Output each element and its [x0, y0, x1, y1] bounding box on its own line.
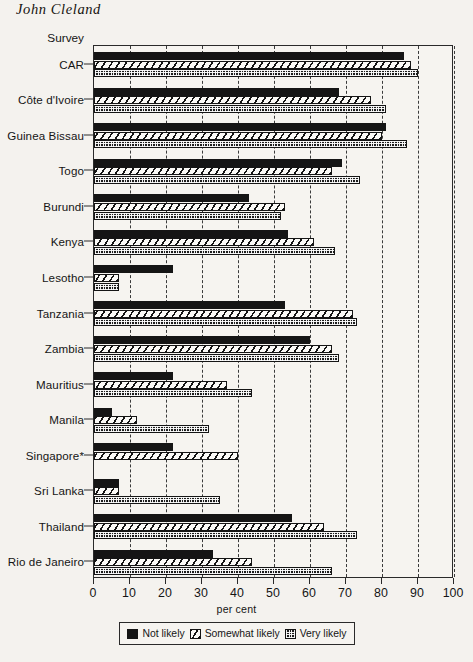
dotted-stipple-swatch	[285, 629, 296, 639]
bar	[94, 531, 357, 539]
bar	[94, 274, 119, 282]
bar	[94, 425, 209, 433]
x-tick-40	[237, 578, 238, 584]
category-label: Manila	[0, 413, 93, 426]
category-tickmark	[84, 99, 93, 100]
category-tickmark	[84, 454, 93, 455]
bar	[94, 452, 238, 460]
diagonal-hatch-swatch	[190, 629, 201, 639]
bar	[94, 354, 339, 362]
bar	[94, 523, 324, 531]
legend-item: Not likely	[127, 628, 184, 639]
bar	[94, 230, 288, 238]
bar	[94, 96, 371, 104]
bar	[94, 301, 285, 309]
bar	[94, 176, 360, 184]
category-label: Kenya	[0, 235, 93, 248]
x-tick-60	[309, 578, 310, 584]
category-label: Togo	[0, 164, 93, 177]
legend-label: Very likely	[300, 628, 347, 639]
bar	[94, 212, 281, 220]
category-tickmark	[84, 525, 93, 526]
bar	[94, 159, 342, 167]
x-tick-10	[129, 578, 130, 584]
category-label: Tanzania	[0, 306, 93, 319]
bar	[94, 345, 332, 353]
category-label: Mauritius	[0, 377, 93, 390]
x-tick-20	[165, 578, 166, 584]
bar	[94, 558, 252, 566]
bar	[94, 132, 382, 140]
bar	[94, 69, 418, 77]
x-tick-70	[345, 578, 346, 584]
x-tick-label-40: 40	[230, 586, 244, 600]
category-label: Sri Lanka	[0, 484, 93, 497]
legend-item: Somewhat likely	[190, 628, 280, 639]
legend-item: Very likely	[285, 628, 347, 639]
category-tickmark	[84, 276, 93, 277]
horizontal-bar-chart: Survey CARCôte d'IvoireGuinea BissauTogo…	[0, 0, 473, 662]
x-tick-label-60: 60	[302, 586, 316, 600]
x-tick-30	[201, 578, 202, 584]
category-label: Rio de Janeiro	[0, 555, 93, 568]
bar	[94, 52, 404, 60]
bar	[94, 408, 112, 416]
bar	[94, 105, 386, 113]
bar	[94, 318, 357, 326]
bar	[94, 140, 407, 148]
bar	[94, 283, 119, 291]
category-label: Lesotho	[0, 270, 93, 283]
category-tickmark	[84, 490, 93, 491]
solid-black-swatch	[127, 629, 138, 639]
category-label: Burundi	[0, 199, 93, 212]
category-tickmark	[84, 205, 93, 206]
gridline-100	[454, 46, 455, 577]
chart-legend: Not likelySomewhat likelyVery likely	[119, 622, 355, 645]
bar	[94, 61, 411, 69]
bar	[94, 550, 213, 558]
legend-label: Not likely	[142, 628, 184, 639]
x-tick-label-0: 0	[90, 586, 97, 600]
category-label: Guinea Bissau	[0, 128, 93, 141]
x-tick-0	[93, 578, 94, 584]
bar	[94, 479, 119, 487]
category-tickmark	[84, 312, 93, 313]
category-tickmark	[84, 170, 93, 171]
bar	[94, 496, 220, 504]
bar	[94, 336, 310, 344]
category-tickmark	[84, 348, 93, 349]
bar	[94, 381, 227, 389]
category-label: Côte d'Ivoire	[0, 93, 93, 106]
x-tick-80	[381, 578, 382, 584]
bar	[94, 487, 119, 495]
bar	[94, 123, 386, 131]
category-tickmark	[84, 134, 93, 135]
category-tickmark	[84, 383, 93, 384]
plot-area	[93, 45, 453, 578]
category-label: Thailand	[0, 519, 93, 532]
category-tickmark	[84, 241, 93, 242]
bar	[94, 265, 173, 273]
bar	[94, 88, 339, 96]
bar	[94, 194, 249, 202]
category-label: CAR	[0, 57, 93, 70]
category-label: Zambia	[0, 342, 93, 355]
x-tick-label-20: 20	[158, 586, 172, 600]
category-tickmark	[84, 419, 93, 420]
bar	[94, 416, 137, 424]
bar	[94, 372, 173, 380]
category-tickmark	[84, 63, 93, 64]
x-tick-label-10: 10	[122, 586, 136, 600]
x-tick-label-70: 70	[338, 586, 352, 600]
x-tick-label-80: 80	[374, 586, 388, 600]
x-tick-label-30: 30	[194, 586, 208, 600]
x-tick-label-90: 90	[410, 586, 424, 600]
bar	[94, 238, 314, 246]
bar	[94, 167, 332, 175]
category-label: Singapore*	[0, 448, 93, 461]
bar	[94, 567, 332, 575]
gridline-90	[418, 46, 419, 577]
x-tick-label-100: 100	[443, 586, 464, 600]
legend-label: Somewhat likely	[205, 628, 280, 639]
bar	[94, 247, 335, 255]
